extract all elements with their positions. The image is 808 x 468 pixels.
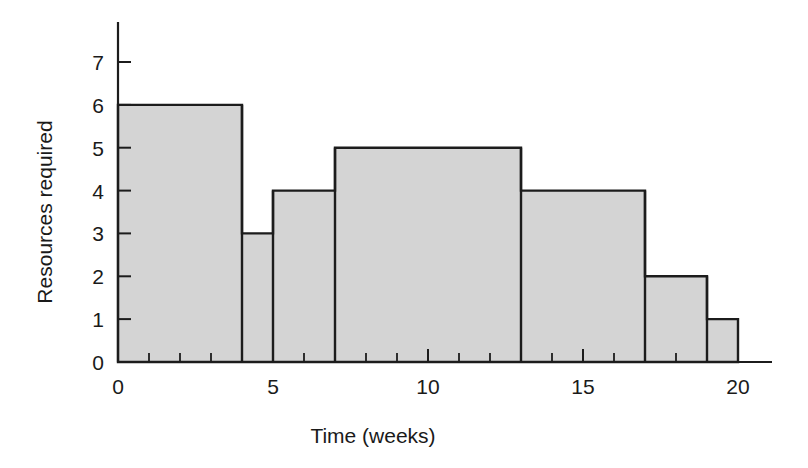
x-tick-label: 10: [416, 375, 439, 398]
chart-canvas: 0123456705101520 Time (weeks) Resources …: [0, 0, 808, 468]
y-tick-label: 2: [92, 265, 104, 288]
x-tick-label: 0: [112, 375, 124, 398]
y-tick-label: 3: [92, 222, 104, 245]
x-tick-label: 15: [571, 375, 594, 398]
x-tick-label: 20: [726, 375, 749, 398]
y-tick-label: 1: [92, 308, 104, 331]
x-tick-label: 5: [267, 375, 279, 398]
resource-histogram-chart: 0123456705101520 Time (weeks) Resources …: [0, 0, 808, 468]
y-tick-label: 7: [92, 51, 104, 74]
y-tick-label: 0: [92, 351, 104, 374]
x-axis-title: Time (weeks): [310, 424, 435, 447]
y-tick-label: 4: [92, 180, 104, 203]
y-tick-label: 5: [92, 137, 104, 160]
y-tick-label: 6: [92, 94, 104, 117]
y-axis-title: Resources required: [33, 120, 56, 303]
bars-group: [118, 105, 738, 362]
